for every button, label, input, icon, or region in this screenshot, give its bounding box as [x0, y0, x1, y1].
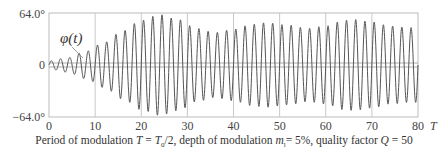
x-tick-label: 10 [89, 119, 101, 133]
x-tick-label: 60 [320, 119, 332, 133]
series-label: φ(t) [60, 30, 82, 47]
x-tick-label: 70 [366, 119, 378, 133]
y-tick-label: 0 [39, 58, 45, 72]
figure-caption: Period of modulation T = T0/2, depth of … [0, 134, 448, 149]
x-tick-label: 20 [135, 119, 147, 133]
caption-eq: = [142, 134, 154, 146]
caption-text: Period of modulation [35, 134, 136, 146]
caption-m: m [275, 134, 283, 146]
caption-text-3: = 5%, quality factor [286, 134, 381, 146]
caption-Q: Q [381, 134, 389, 146]
caption-text-2: /2, depth of modulation [165, 134, 276, 146]
y-tick-label: 64.0° [19, 7, 45, 21]
x-tick-label: 80 [412, 119, 424, 133]
y-tick-label: −64.0° [12, 110, 45, 124]
x-tick-label: 50 [274, 119, 286, 133]
x-axis-label: T [430, 119, 438, 133]
x-tick-label: 0 [46, 119, 52, 133]
caption-Q-val: = 50 [389, 134, 413, 146]
x-tick-label: 40 [228, 119, 240, 133]
x-tick-label: 30 [181, 119, 193, 133]
chart: 01020304050607080T64.0°0−64.0°φ(t) [0, 0, 448, 154]
